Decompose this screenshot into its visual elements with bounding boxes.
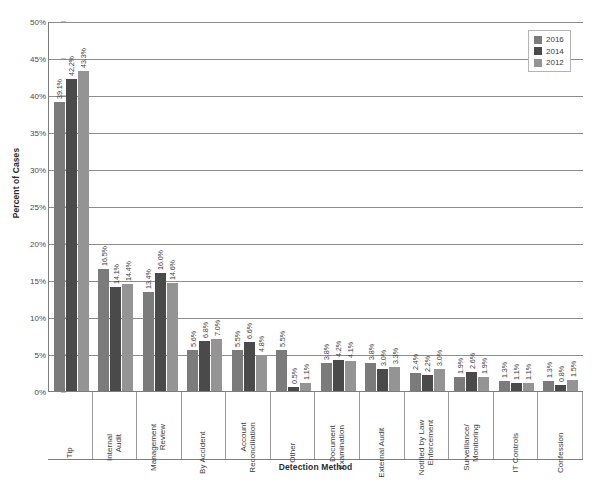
- bar-value-label: 1.9%: [455, 358, 464, 374]
- bar-column: 6.6%: [244, 22, 255, 391]
- bar-value-label: 1.3%: [500, 362, 509, 378]
- bar[interactable]: 3.8%: [321, 363, 332, 391]
- x-category-cell: IT Controls: [494, 392, 539, 459]
- plot-area: 39.1%42.2%43.3%16.5%14.1%14.4%13.4%16.0%…: [48, 22, 583, 392]
- bar[interactable]: 3.3%: [389, 367, 400, 391]
- bar[interactable]: 5.5%: [232, 350, 243, 391]
- legend-swatch-icon: [534, 59, 542, 67]
- bar-group: 3.8%4.2%4.1%: [316, 22, 361, 391]
- bar-value-label: 13.4%: [144, 269, 153, 289]
- bar-chart: Percent of Cases 50%45%40%35%30%25%20%15…: [0, 0, 606, 482]
- bar-value-label: 4.2%: [334, 341, 343, 357]
- bar-value-label: 6.8%: [200, 322, 209, 338]
- bar-value-label: 2.4%: [411, 354, 420, 370]
- bar-value-label: 1.3%: [544, 362, 553, 378]
- bar[interactable]: 5.5%: [276, 350, 287, 391]
- bar[interactable]: 1.9%: [454, 377, 465, 391]
- bar[interactable]: 7.0%: [211, 339, 222, 391]
- bar-column: 2.6%: [466, 22, 477, 391]
- bar[interactable]: 4.8%: [256, 355, 267, 391]
- bar-value-label: 1.1%: [301, 364, 310, 380]
- y-tick-label: 20%: [18, 240, 46, 249]
- bar-column: 4.8%: [256, 22, 267, 391]
- bar-value-label: 1.1%: [524, 364, 533, 380]
- bar-column: 16.0%: [155, 22, 166, 391]
- bar-group: 5.6%6.8%7.0%: [183, 22, 228, 391]
- bar[interactable]: 1.1%: [511, 383, 522, 391]
- bar-value-label: 16.5%: [99, 246, 108, 266]
- legend-label: 2016: [546, 35, 564, 44]
- legend-swatch-icon: [534, 36, 542, 44]
- x-category-cell: Account Reconciliation: [226, 392, 271, 459]
- bar[interactable]: 14.6%: [167, 283, 178, 391]
- bar[interactable]: 2.4%: [410, 373, 421, 391]
- bar-column: 16.5%: [98, 22, 109, 391]
- bar[interactable]: 14.4%: [122, 284, 133, 391]
- bar-column: 0.5%: [288, 22, 299, 391]
- bar-column: 3.8%: [321, 22, 332, 391]
- bar-group: 2.4%2.2%3.0%: [405, 22, 450, 391]
- bar-column: 3.8%: [365, 22, 376, 391]
- bar[interactable]: 4.1%: [345, 361, 356, 391]
- bar-group: 5.5%0.5%1.1%: [272, 22, 317, 391]
- bar[interactable]: 16.5%: [98, 269, 109, 391]
- bar[interactable]: 2.6%: [466, 372, 477, 391]
- legend-label: 2014: [546, 47, 564, 56]
- y-tick-label: 30%: [18, 166, 46, 175]
- bar-column: 1.1%: [300, 22, 311, 391]
- legend-item[interactable]: 2016: [534, 35, 564, 44]
- x-category-cell: Document Examination: [315, 392, 360, 459]
- bar-group: 13.4%16.0%14.6%: [138, 22, 183, 391]
- bar-value-label: 14.4%: [123, 262, 132, 282]
- bar-column: 4.1%: [345, 22, 356, 391]
- x-category-inner: Tip: [48, 391, 92, 457]
- bar-value-label: 5.5%: [277, 331, 286, 347]
- bar[interactable]: 3.0%: [377, 369, 388, 391]
- legend-item[interactable]: 2014: [534, 47, 564, 56]
- x-category-label: Other: [288, 442, 297, 462]
- bar-group: 1.3%0.8%1.5%: [539, 22, 584, 391]
- bar[interactable]: 1.9%: [478, 377, 489, 391]
- x-axis-title: Detection Method: [48, 462, 583, 472]
- x-category-cell: Surveillance/ Monitoring: [449, 392, 494, 459]
- x-category-cell: Management Review: [137, 392, 182, 459]
- bar[interactable]: 1.1%: [300, 383, 311, 391]
- x-axis-categories: TipInternal AuditManagement ReviewBy Acc…: [48, 392, 583, 460]
- bar[interactable]: 6.8%: [199, 341, 210, 391]
- bar[interactable]: 1.1%: [523, 383, 534, 391]
- bar-column: 5.6%: [187, 22, 198, 391]
- bar-column: 1.5%: [567, 22, 578, 391]
- bar-column: 1.1%: [523, 22, 534, 391]
- bar[interactable]: 5.6%: [187, 350, 198, 391]
- legend-item[interactable]: 2012: [534, 58, 564, 67]
- bar[interactable]: 16.0%: [155, 273, 166, 391]
- y-axis-tick-labels: 50%45%40%35%30%25%20%15%10%5%0%: [18, 22, 46, 392]
- bar[interactable]: 1.5%: [567, 380, 578, 391]
- bar[interactable]: 14.1%: [110, 287, 121, 391]
- bar-value-label: 2.2%: [423, 356, 432, 372]
- bar-value-label: 3.0%: [435, 350, 444, 366]
- x-category-inner: Document Examination: [315, 391, 359, 457]
- bar-column: 4.2%: [333, 22, 344, 391]
- bar-value-label: 3.8%: [322, 344, 331, 360]
- bar[interactable]: 42.2%: [66, 79, 77, 391]
- bar[interactable]: 13.4%: [143, 292, 154, 391]
- bar-column: 42.2%: [66, 22, 77, 391]
- x-category-inner: Management Review: [137, 391, 181, 457]
- bar[interactable]: 4.2%: [333, 360, 344, 391]
- x-category-cell: Notified by Law Enforcement: [405, 392, 450, 459]
- bar-value-label: 3.0%: [378, 350, 387, 366]
- x-category-label: Tip: [65, 447, 74, 458]
- bar[interactable]: 43.3%: [78, 71, 89, 391]
- x-category-inner: By Accident: [182, 391, 226, 457]
- bar[interactable]: 1.3%: [499, 381, 510, 391]
- bar[interactable]: 3.8%: [365, 363, 376, 391]
- bar[interactable]: 2.2%: [422, 375, 433, 391]
- x-category-inner: Notified by Law Enforcement: [405, 391, 449, 457]
- bar-column: 14.1%: [110, 22, 121, 391]
- bar[interactable]: 3.0%: [434, 369, 445, 391]
- bar[interactable]: 39.1%: [54, 102, 65, 391]
- bar[interactable]: 1.3%: [543, 381, 554, 391]
- bar-column: 13.4%: [143, 22, 154, 391]
- bar[interactable]: 6.6%: [244, 342, 255, 391]
